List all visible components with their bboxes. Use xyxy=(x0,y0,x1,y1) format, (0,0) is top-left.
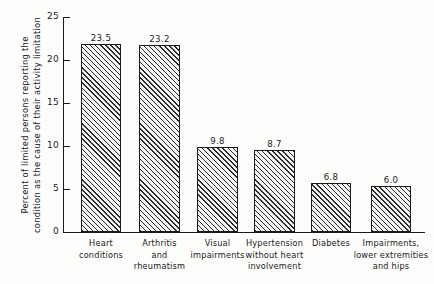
y-tick-mark xyxy=(63,17,70,18)
y-tick-label: 20 xyxy=(47,54,59,64)
y-axis-title-line-1: Percent of limited persons reporting the xyxy=(19,3,31,247)
x-category-label-line: rheumatism xyxy=(117,261,203,273)
x-axis-line xyxy=(63,232,425,233)
x-category-label-line: involvement xyxy=(232,261,318,273)
bar: 9.8 xyxy=(197,147,238,232)
chart-page: Percent of limited persons reporting the… xyxy=(0,0,434,284)
bar: 8.7 xyxy=(254,150,295,232)
y-tick-label: 25 xyxy=(47,11,59,21)
bar-value-label: 23.2 xyxy=(140,34,179,44)
plot-area: 0510152025 23.523.29.88.76.86.0 Heartcon… xyxy=(63,17,425,232)
y-tick-mark xyxy=(63,189,70,190)
bar: 6.0 xyxy=(371,186,411,232)
y-tick-label: 10 xyxy=(47,140,59,150)
bar-value-label: 6.0 xyxy=(372,175,410,185)
x-category-label-line: and hips xyxy=(348,261,434,273)
y-tick-label: 5 xyxy=(53,183,59,193)
bar: 6.8 xyxy=(311,183,351,232)
y-tick-mark xyxy=(63,232,70,233)
y-tick-label: 0 xyxy=(53,226,59,236)
y-tick-mark xyxy=(63,103,70,104)
bar-value-label: 8.7 xyxy=(255,139,294,149)
bar-value-label: 6.8 xyxy=(312,172,350,182)
bar: 23.2 xyxy=(139,45,180,232)
y-tick-mark xyxy=(63,60,70,61)
y-axis-line xyxy=(63,17,64,232)
x-category-label-line: without heart xyxy=(232,250,318,262)
bar-value-label: 23.5 xyxy=(82,33,120,43)
y-tick-label: 15 xyxy=(47,97,59,107)
y-axis-title: Percent of limited persons reporting the… xyxy=(19,3,53,247)
y-tick-mark xyxy=(63,146,70,147)
x-category-label-line: lower extremities xyxy=(348,250,434,262)
x-category-label-line: Impairments, xyxy=(348,238,434,250)
bar-value-label: 9.8 xyxy=(198,136,237,146)
bar: 23.5 xyxy=(81,44,121,232)
x-category-label: Impairments,lower extremitiesand hips xyxy=(348,238,434,273)
y-axis-title-line-2: condition as the cause of their activity… xyxy=(31,3,43,247)
